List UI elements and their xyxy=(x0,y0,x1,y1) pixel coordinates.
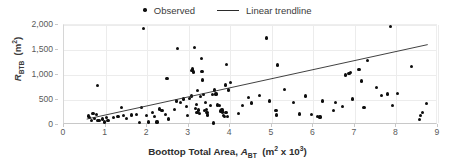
y-tick-mark xyxy=(55,74,58,75)
y-tick-mark xyxy=(55,24,58,25)
legend-item-observed: Observed xyxy=(143,5,195,16)
y-tick-label: 0 xyxy=(48,119,53,129)
x-tick-mark xyxy=(354,124,355,127)
x-tick-mark xyxy=(146,124,147,127)
x-tick-mark xyxy=(63,124,64,127)
x-tick-label: 5 xyxy=(268,127,273,137)
y-tick-mark xyxy=(55,49,58,50)
x-tick-mark xyxy=(271,124,272,127)
x-tick-label: 1 xyxy=(102,127,107,137)
observed-dot-icon xyxy=(143,8,146,11)
x-tick-label: 6 xyxy=(310,127,315,137)
x-tick-label: 2 xyxy=(144,127,149,137)
trendline-line-icon xyxy=(217,10,239,11)
y-tick-label: 1,500 xyxy=(31,44,53,54)
y-tick-label: 1,000 xyxy=(31,69,53,79)
chart-legend: Observed Linear trendline xyxy=(0,2,455,18)
x-tick-mark xyxy=(395,124,396,127)
x-tick-label: 0 xyxy=(61,127,66,137)
legend-label-observed: Observed xyxy=(154,5,195,16)
trendline xyxy=(64,25,436,123)
x-tick-label: 7 xyxy=(351,127,356,137)
legend-label-trendline: Linear trendline xyxy=(246,5,312,16)
y-tick-label: 500 xyxy=(39,94,53,104)
x-tick-mark xyxy=(437,124,438,127)
y-tick-mark xyxy=(55,124,58,125)
plot-area xyxy=(63,24,437,124)
x-tick-mark xyxy=(229,124,230,127)
x-axis-title: Boottop Total Area, ABT (m2 x 103) xyxy=(0,145,455,159)
y-tick-mark xyxy=(55,99,58,100)
gridline-vertical xyxy=(438,25,439,123)
x-tick-label: 4 xyxy=(227,127,232,137)
x-tick-mark xyxy=(312,124,313,127)
x-tick-label: 3 xyxy=(185,127,190,137)
x-tick-label: 9 xyxy=(435,127,440,137)
x-tick-mark xyxy=(188,124,189,127)
x-tick-mark xyxy=(105,124,106,127)
legend-item-trendline: Linear trendline xyxy=(217,5,312,16)
x-tick-label: 8 xyxy=(393,127,398,137)
x-axis-ticks: 0123456789 xyxy=(63,124,437,140)
scatter-chart: Observed Linear trendline RBTB (m2) 0500… xyxy=(0,0,455,167)
y-axis-ticks: 05001,0001,5002,000 xyxy=(0,24,58,124)
y-tick-label: 2,000 xyxy=(31,19,53,29)
